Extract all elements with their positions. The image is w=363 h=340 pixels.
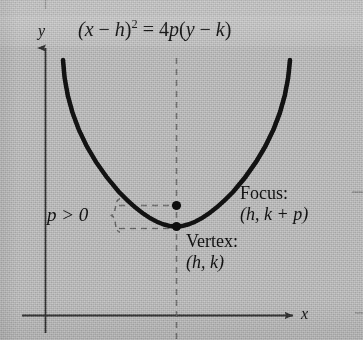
equation-var-p: p — [169, 18, 179, 40]
equation-var-y: y — [186, 18, 195, 40]
y-axis-label: y — [38, 22, 45, 40]
vertex-point — [172, 222, 181, 231]
x-axis-label: x — [301, 305, 308, 323]
focus-annotation: Focus: (h, k + p) — [240, 183, 308, 224]
equation-coefficient-4: 4 — [159, 18, 169, 40]
equation-close-paren-1: ) — [125, 18, 132, 40]
parabola-figure: (x − h)2 = 4p(y − k) y x p > 0 Focus: (h… — [0, 0, 363, 340]
equation-open-paren-2: ( — [179, 18, 186, 40]
parabola-plot — [0, 0, 363, 340]
equation-equals: = — [138, 18, 159, 40]
equation-var-x: x — [85, 18, 94, 40]
vertex-annotation-title: Vertex: — [186, 231, 238, 251]
equation-minus-1: − — [94, 18, 115, 40]
p-distance-brace — [112, 199, 121, 232]
vertex-annotation: Vertex: (h, k) — [186, 231, 238, 272]
right-margin-artifact-lower — [355, 312, 363, 314]
equation-var-k: k — [216, 18, 225, 40]
equation-open-paren: ( — [78, 18, 85, 40]
equation-label: (x − h)2 = 4p(y − k) — [78, 18, 231, 40]
p-condition-label: p > 0 — [47, 204, 88, 225]
equation-close-paren-2: ) — [225, 18, 232, 40]
right-margin-artifact-upper — [352, 191, 363, 193]
focus-annotation-title: Focus: — [240, 183, 288, 203]
equation-minus-2: − — [195, 18, 216, 40]
vertex-annotation-coords: (h, k) — [186, 252, 238, 272]
focus-annotation-coords: (h, k + p) — [240, 204, 308, 224]
equation-var-h: h — [115, 18, 125, 40]
focus-point — [172, 201, 181, 210]
